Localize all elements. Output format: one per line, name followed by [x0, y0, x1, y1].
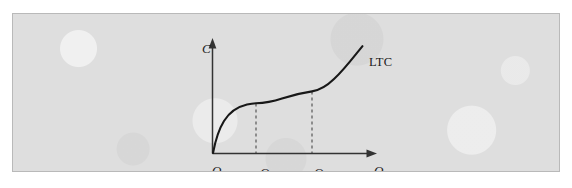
tick-label-q1: Q1 [260, 166, 273, 172]
cost-curve-plot [13, 14, 560, 172]
tick-label-q2-base: Q [314, 165, 323, 172]
ltc-curve-label: LTC [369, 56, 392, 69]
cost-axis-label: C [202, 42, 211, 55]
figure-frame: C O Q Q1 Q2 LTC [12, 13, 560, 172]
tick-label-q2: Q2 [314, 166, 327, 172]
ltc-curve [213, 46, 363, 153]
scanned-page: C O Q Q1 Q2 LTC [0, 0, 572, 188]
tick-label-q1-base: Q [260, 165, 269, 172]
quantity-axis-label: Q [374, 164, 383, 172]
origin-label: O [212, 164, 221, 172]
quantity-axis-line [213, 150, 378, 158]
